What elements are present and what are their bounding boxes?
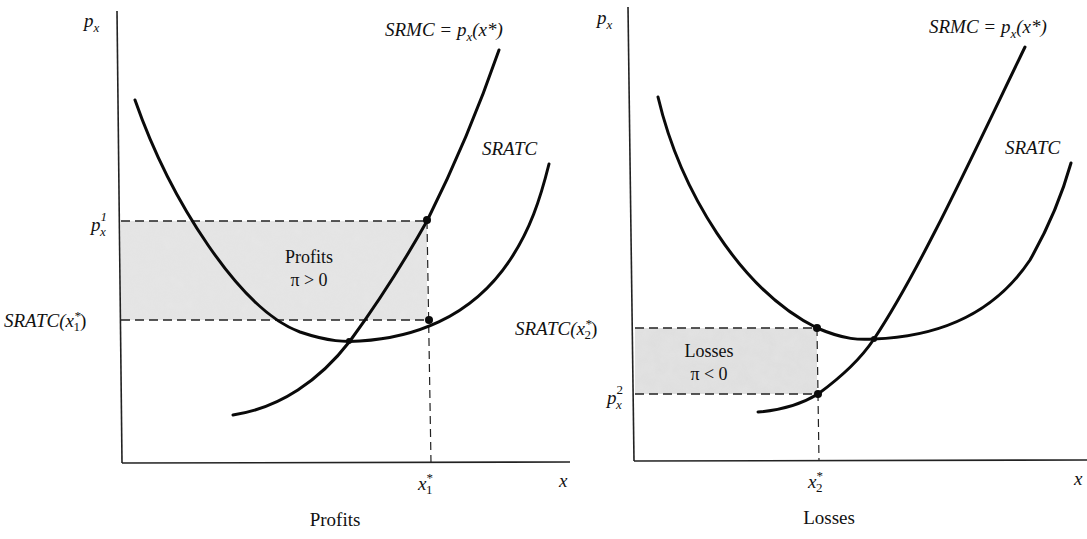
min-intersection-point (346, 338, 352, 344)
tick-sratc-x1: SRATC(x*1) (4, 308, 86, 334)
x-axis (122, 462, 570, 463)
y-axis-label: px (82, 10, 100, 35)
sratc-label: SRATC (482, 138, 538, 159)
region-condition: π > 0 (290, 270, 327, 290)
srmc-label: SRMC = px(x*) (929, 16, 1047, 41)
region-condition: π < 0 (690, 364, 727, 384)
region-title: Losses (685, 341, 734, 361)
x1-dashed-line (427, 221, 431, 463)
y-axis-label: px (595, 7, 613, 32)
profits-chart: px SRMC = px(x*) SRATC p1x SRATC(x*1) x*… (4, 10, 570, 530)
sratc-label: SRATC (1005, 137, 1061, 158)
tick-x2: x*2 (807, 468, 823, 495)
sratc-x1-point (425, 316, 433, 324)
p2-point (814, 390, 822, 398)
sratc-curve (658, 97, 1071, 339)
x-axis (634, 460, 1087, 461)
p1-point (423, 216, 431, 224)
figure: px SRMC = px(x*) SRATC p1x SRATC(x*1) x*… (0, 0, 1087, 539)
tick-x1: x*1 (417, 470, 433, 497)
srmc-label: SRMC = px(x*) (385, 19, 503, 44)
y-axis (628, 7, 634, 461)
caption: Profits (310, 509, 361, 530)
tick-p1: p1x (89, 209, 107, 239)
x-axis-label: x (1073, 468, 1083, 489)
caption: Losses (803, 507, 855, 528)
x-axis-label: x (558, 470, 568, 491)
tick-sratc-x2: SRATC(x*2) (515, 316, 597, 342)
min-intersection-point (871, 336, 877, 342)
sratc-x2-point (813, 324, 821, 332)
tick-p2: p2x (605, 382, 623, 412)
region-title: Profits (285, 247, 333, 267)
losses-chart: px SRMC = px(x*) SRATC SRATC(x*2) p2x x*… (515, 7, 1087, 528)
